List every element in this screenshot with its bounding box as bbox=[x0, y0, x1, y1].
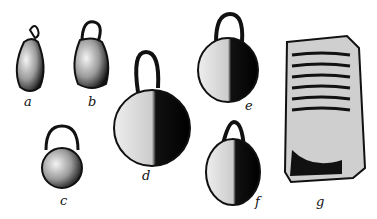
illustration bbox=[0, 0, 377, 219]
label-a: a bbox=[24, 94, 32, 109]
label-f: f bbox=[255, 194, 260, 209]
object-c bbox=[42, 126, 82, 188]
object-b bbox=[74, 22, 108, 88]
label-e: e bbox=[245, 98, 253, 113]
object-d bbox=[114, 52, 190, 166]
object-e bbox=[198, 14, 258, 102]
label-b: b bbox=[88, 94, 96, 109]
figure-plate: a b c d e f g bbox=[0, 0, 377, 219]
object-f bbox=[206, 122, 260, 205]
label-d: d bbox=[142, 168, 150, 183]
label-c: c bbox=[60, 193, 67, 208]
object-g bbox=[285, 36, 365, 182]
label-g: g bbox=[316, 194, 324, 209]
object-a bbox=[17, 26, 44, 91]
